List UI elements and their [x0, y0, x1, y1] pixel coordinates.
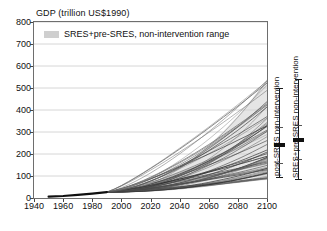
y-tick-label: 700 [1, 40, 31, 49]
range-bar-label: post-SRES non-intervention [273, 77, 281, 176]
x-tick-mark [180, 199, 181, 202]
x-tick-label: 2100 [251, 202, 283, 211]
legend: SRES+pre-SRES, non-intervention range [44, 30, 229, 39]
y-tick-label: 500 [1, 84, 31, 93]
y-tick-mark [30, 110, 33, 111]
x-tick-label: 1960 [47, 202, 79, 211]
plot-canvas [34, 22, 267, 198]
y-tick-mark [30, 154, 33, 155]
y-tick-label: 100 [1, 172, 31, 181]
x-tick-label: 1940 [18, 202, 50, 211]
x-tick-label: 2020 [135, 202, 167, 211]
y-tick-mark [30, 22, 33, 23]
x-tick-mark [238, 199, 239, 202]
legend-swatch-range [44, 31, 59, 38]
y-tick-mark [30, 176, 33, 177]
y-axis-labels: 0100200300400500600700800 [0, 0, 31, 231]
x-tick-mark [267, 199, 268, 202]
x-tick-label: 2080 [222, 202, 254, 211]
y-tick-mark [30, 198, 33, 199]
y-tick-label: 400 [1, 106, 31, 115]
y-tick-mark [30, 44, 33, 45]
y-tick-mark [30, 88, 33, 89]
x-tick-mark [121, 199, 122, 202]
range-bar-cap-min [295, 179, 302, 180]
x-tick-mark [209, 199, 210, 202]
x-tick-label: 1980 [76, 202, 108, 211]
y-tick-label: 300 [1, 128, 31, 137]
x-tick-label: 2060 [193, 202, 225, 211]
y-tick-mark [30, 132, 33, 133]
chart-axis-title: GDP (trillion US$1990) [36, 8, 130, 18]
range-bar-label: SRES+pre-SRES non-intervention [292, 56, 300, 178]
legend-label-range: SRES+pre-SRES, non-intervention range [64, 30, 229, 39]
y-tick-label: 600 [1, 62, 31, 71]
x-tick-mark [34, 199, 35, 202]
x-tick-mark [63, 199, 64, 202]
plot-area [33, 21, 268, 199]
y-tick-label: 800 [1, 18, 31, 27]
x-tick-mark [92, 199, 93, 202]
historical-line [49, 192, 107, 197]
x-tick-mark [151, 199, 152, 202]
x-tick-label: 2000 [105, 202, 137, 211]
y-tick-label: 200 [1, 150, 31, 159]
y-tick-mark [30, 66, 33, 67]
gdp-scenario-chart: GDP (trillion US$1990) 01002003004005006… [0, 0, 327, 231]
range-bar-cap-min [276, 177, 283, 178]
x-tick-label: 2040 [164, 202, 196, 211]
